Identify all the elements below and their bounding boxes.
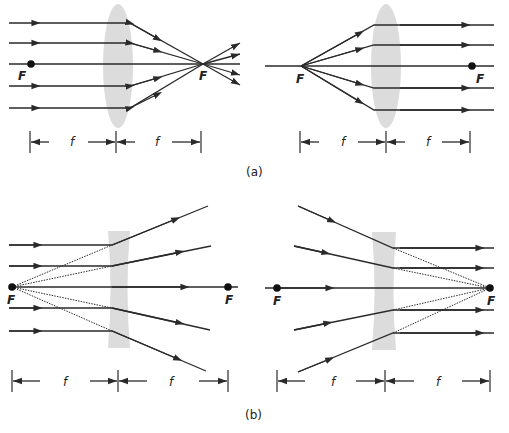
dimension-bar: f f <box>277 370 490 392</box>
focal-length-label: f <box>169 375 175 389</box>
focal-label: F <box>273 294 282 308</box>
focal-length-label: f <box>436 375 442 389</box>
focal-label: F <box>7 293 16 307</box>
focal-label: F <box>18 69 27 83</box>
focal-length-label: f <box>426 135 432 149</box>
focal-label: F <box>199 69 208 83</box>
focal-length-label: f <box>331 375 337 389</box>
panel-caption-a: (a) <box>246 165 263 179</box>
panel-a-right: F F f f <box>265 4 494 153</box>
focal-point-dot <box>27 60 35 68</box>
dimension-bar: f f <box>300 131 470 153</box>
focal-length-label: f <box>70 135 76 149</box>
focal-length-label: f <box>63 375 69 389</box>
focal-point-dot <box>8 283 16 291</box>
dimension-bar: f f <box>12 370 228 392</box>
diverging-lens <box>372 232 396 350</box>
focal-label: F <box>487 294 496 308</box>
panel-b-left: F F f f <box>7 206 238 392</box>
panel-b-right: F F f f <box>265 206 496 392</box>
lens-ray-diagram: F F f f <box>0 0 509 433</box>
focal-length-label: f <box>341 135 347 149</box>
focal-label: F <box>296 72 305 86</box>
focal-label: F <box>476 72 485 86</box>
focal-length-label: f <box>155 135 161 149</box>
focal-point-dot <box>224 283 232 291</box>
focal-label: F <box>225 293 234 307</box>
focal-point-dot <box>486 284 494 292</box>
focal-point-dot <box>468 62 476 70</box>
focal-point-dot <box>273 284 281 292</box>
panel-caption-b: (b) <box>245 408 262 422</box>
panel-a-left: F F f f <box>9 4 240 153</box>
diagram-canvas: F F f f <box>0 0 509 433</box>
dimension-bar: f f <box>30 131 201 153</box>
